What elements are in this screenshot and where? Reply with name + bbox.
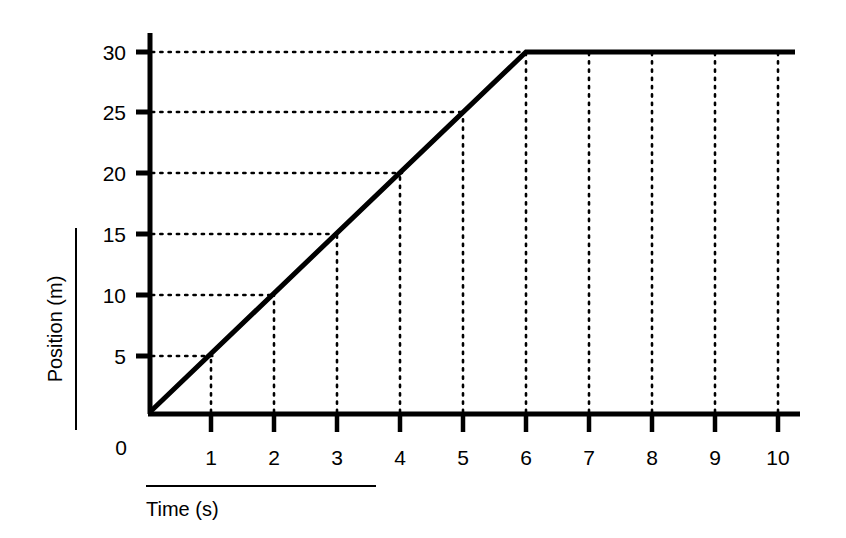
y-tick-label-10: 10 — [103, 284, 126, 307]
y-axis-title: Position (m) — [44, 276, 66, 383]
x-tick-label-5: 5 — [457, 446, 469, 469]
y-tick-label-15: 15 — [103, 223, 126, 246]
x-tick-label-2: 2 — [268, 446, 280, 469]
x-tick-label-7: 7 — [583, 446, 595, 469]
y-tick-label-25: 25 — [103, 101, 126, 124]
x-axis-ticks — [211, 414, 778, 432]
vertical-gridlines — [211, 52, 778, 412]
x-tick-label-4: 4 — [394, 446, 406, 469]
horizontal-gridlines — [152, 52, 528, 356]
position-curve — [150, 52, 795, 412]
x-tick-label-10: 10 — [766, 446, 789, 469]
origin-label: 0 — [115, 436, 127, 459]
position-time-graph: 30 25 20 15 10 5 0 1 2 3 4 5 6 7 8 9 10 … — [0, 0, 846, 538]
x-tick-label-6: 6 — [520, 446, 532, 469]
y-tick-label-30: 30 — [103, 41, 126, 64]
x-tick-label-3: 3 — [331, 446, 343, 469]
x-tick-label-9: 9 — [709, 446, 721, 469]
x-tick-label-1: 1 — [205, 446, 217, 469]
x-axis-title: Time (s) — [146, 498, 219, 520]
y-tick-label-20: 20 — [103, 162, 126, 185]
x-tick-label-8: 8 — [646, 446, 658, 469]
chart-canvas: 30 25 20 15 10 5 0 1 2 3 4 5 6 7 8 9 10 … — [0, 0, 846, 538]
y-tick-label-5: 5 — [114, 345, 126, 368]
